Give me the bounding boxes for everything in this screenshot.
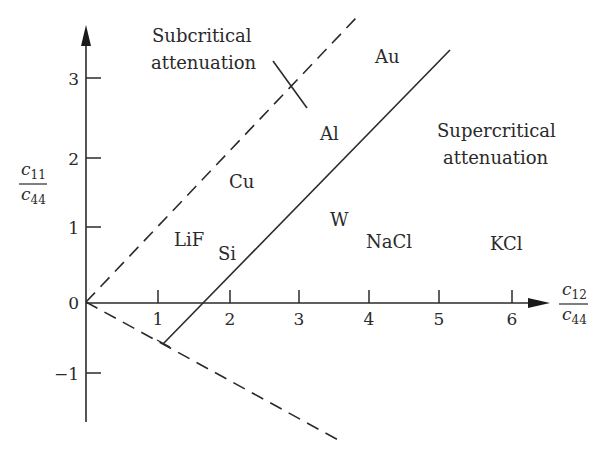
supercritical-label-line2: attenuation	[443, 147, 549, 168]
x-tick-2: 2	[225, 309, 236, 329]
material-si: Si	[218, 243, 236, 264]
y-axis-label: c11 c44	[19, 159, 47, 207]
x-axis: 1 2 3 4 5 6	[86, 290, 550, 329]
material-nacl: NaCl	[366, 231, 412, 252]
subcritical-label-line1: Subcritical	[152, 25, 252, 46]
x-tick-1: 1	[153, 309, 164, 329]
x-tick-3: 3	[294, 309, 305, 329]
y-tick-1: 1	[68, 218, 79, 238]
y-tick-3: 3	[68, 69, 79, 89]
y-tick-2: 2	[68, 149, 79, 169]
y-axis: 3 2 1 0 −1	[54, 25, 101, 422]
material-cu: Cu	[229, 171, 254, 192]
x-tick-6: 6	[507, 309, 518, 329]
svg-text:c12: c12	[562, 279, 587, 302]
svg-text:c44: c44	[21, 184, 46, 207]
material-au: Au	[374, 46, 400, 67]
subcritical-label-line2: attenuation	[151, 52, 257, 73]
x-tick-4: 4	[364, 309, 375, 329]
y-axis-arrow-icon	[81, 25, 91, 46]
solid-end-cap	[157, 340, 170, 347]
svg-text:c44: c44	[562, 304, 587, 327]
material-kcl: KCl	[490, 233, 523, 254]
material-w: W	[330, 209, 349, 230]
x-axis-arrow-icon	[528, 298, 550, 308]
y-tick-neg1: −1	[54, 364, 79, 384]
material-lif: LiF	[174, 229, 204, 250]
material-al: Al	[319, 123, 339, 144]
x-tick-5: 5	[434, 309, 445, 329]
y-tick-0: 0	[68, 293, 79, 313]
x-axis-label: c12 c44	[559, 279, 588, 327]
svg-text:c11: c11	[21, 159, 46, 182]
attenuation-diagram: 3 2 1 0 −1 c11 c44 1 2 3 4 5 6	[0, 0, 607, 456]
supercritical-label-line1: Supercritical	[437, 120, 556, 141]
solid-critical-boundary	[163, 50, 450, 344]
